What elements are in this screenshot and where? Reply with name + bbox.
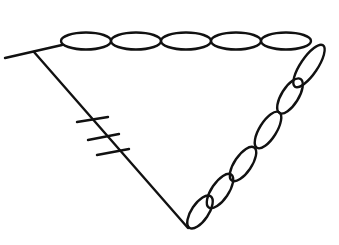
right-chain-ellipse xyxy=(182,191,217,232)
top-chain-ellipse xyxy=(211,33,261,50)
right-chain-ellipse xyxy=(225,143,261,186)
top-ellipse-chain xyxy=(61,33,311,50)
right-chain-ellipse xyxy=(202,170,238,213)
top-chain-ellipse xyxy=(111,33,161,50)
triangle-diagram xyxy=(0,0,339,245)
right-chain-ellipse xyxy=(250,108,287,153)
tick-mark xyxy=(88,134,119,140)
right-ellipse-chain xyxy=(182,41,330,233)
top-chain-ellipse xyxy=(261,33,311,50)
top-chain-ellipse xyxy=(161,33,211,50)
left-edge-group xyxy=(34,52,188,228)
left-edge-line xyxy=(34,52,188,228)
tick-marks xyxy=(77,117,129,155)
top-chain-ellipse xyxy=(61,33,111,50)
